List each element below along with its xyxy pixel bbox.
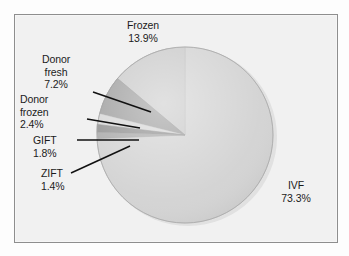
slice-label-zift-value: 1.4% <box>41 180 93 193</box>
slice-label-donor-frozen-line1: Donor <box>20 93 84 106</box>
pie-gloss-overlay <box>97 47 273 223</box>
slice-label-donor-frozen: Donor frozen 2.4% <box>20 93 84 131</box>
slice-label-zift-name: ZIFT <box>41 167 93 180</box>
slice-label-ivf-name: IVF <box>265 179 327 192</box>
slice-label-donor-frozen-value: 2.4% <box>20 118 84 131</box>
slice-label-donor-fresh-line2: fresh <box>25 66 87 79</box>
slice-label-ivf-value: 73.3% <box>265 192 327 205</box>
slice-label-donor-frozen-line2: frozen <box>20 106 84 119</box>
slice-label-gift-value: 1.8% <box>33 147 85 160</box>
slice-label-gift-name: GIFT <box>33 134 85 147</box>
pie-chart-figure: Frozen 13.9% Donor fresh 7.2% Donor froz… <box>0 0 349 256</box>
slice-label-frozen-name: Frozen <box>107 19 179 32</box>
slice-label-donor-fresh-value: 7.2% <box>25 78 87 91</box>
slice-label-zift: ZIFT 1.4% <box>41 167 93 192</box>
slice-label-frozen-value: 13.9% <box>107 32 179 45</box>
slice-label-frozen: Frozen 13.9% <box>107 19 179 44</box>
slice-label-donor-fresh: Donor fresh 7.2% <box>25 53 87 91</box>
chart-plot-frame: Frozen 13.9% Donor fresh 7.2% Donor froz… <box>14 14 338 243</box>
slice-label-ivf: IVF 73.3% <box>265 179 327 204</box>
slice-label-gift: GIFT 1.8% <box>33 134 85 159</box>
slice-label-donor-fresh-line1: Donor <box>25 53 87 66</box>
